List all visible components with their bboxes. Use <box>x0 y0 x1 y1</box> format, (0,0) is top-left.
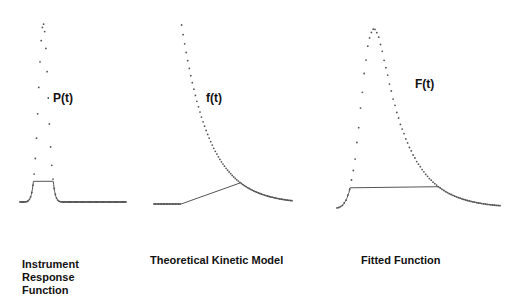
irf-caption-line: Instrument <box>22 258 79 271</box>
data-point <box>365 59 367 61</box>
data-point <box>42 27 44 29</box>
data-point <box>40 40 42 42</box>
data-point <box>202 121 204 123</box>
fitted-function-caption: Fitted Function <box>361 254 440 267</box>
data-point <box>208 137 210 139</box>
data-point <box>218 156 220 158</box>
data-point <box>187 60 189 62</box>
data-point <box>37 113 39 115</box>
data-point <box>34 158 36 160</box>
data-point <box>356 142 358 144</box>
data-point <box>390 90 392 92</box>
fitted-function-curve-label: F(t) <box>415 77 434 91</box>
data-point <box>409 147 411 149</box>
data-point <box>39 61 41 63</box>
data-point <box>376 32 378 34</box>
kinetic-model-caption: Theoretical Kinetic Model <box>150 254 283 267</box>
data-point <box>222 163 224 165</box>
data-point <box>49 123 51 125</box>
data-point <box>214 150 216 152</box>
data-point <box>225 167 227 169</box>
data-point <box>358 127 360 129</box>
curve-tail-trace <box>154 183 292 204</box>
data-point <box>396 112 398 114</box>
data-point <box>185 52 187 54</box>
data-point <box>414 157 416 159</box>
kinetic-model-curve-label: f(t) <box>206 91 222 105</box>
data-point <box>380 44 382 46</box>
data-point <box>211 144 213 146</box>
data-point <box>351 179 353 181</box>
data-point <box>430 179 432 181</box>
data-point <box>405 138 407 140</box>
data-point <box>190 75 192 77</box>
data-point <box>403 133 405 135</box>
irf-caption-line: Response <box>22 271 79 284</box>
data-point <box>52 178 54 180</box>
data-point <box>221 161 223 163</box>
data-point <box>43 23 45 25</box>
data-point <box>193 88 195 90</box>
data-point <box>421 169 423 171</box>
data-point <box>219 159 221 161</box>
curve-tail-trace <box>337 187 500 208</box>
data-point <box>387 74 389 76</box>
fitted-function-panel <box>336 28 501 209</box>
data-point <box>412 154 414 156</box>
data-point <box>400 124 402 126</box>
data-point <box>47 97 49 99</box>
data-point <box>195 95 197 97</box>
data-point <box>51 164 53 166</box>
data-point <box>38 87 40 89</box>
data-point <box>427 175 429 177</box>
data-point <box>204 125 206 127</box>
data-point <box>224 165 226 167</box>
data-point <box>416 161 418 163</box>
data-point <box>401 128 403 130</box>
data-point <box>425 174 427 176</box>
data-point <box>398 117 400 119</box>
data-point <box>363 73 365 75</box>
data-point <box>381 50 383 52</box>
data-point <box>198 106 200 108</box>
data-point <box>371 32 373 34</box>
data-point <box>188 68 190 70</box>
irf-caption: Instrument Response Function <box>22 258 79 297</box>
data-point <box>362 91 364 93</box>
data-point <box>372 28 374 30</box>
data-point <box>36 137 38 139</box>
data-point <box>228 171 230 173</box>
data-point <box>210 141 212 143</box>
data-point <box>389 83 391 85</box>
data-point <box>46 71 48 73</box>
data-point <box>45 48 47 50</box>
data-point <box>231 175 233 177</box>
irf-curve-label: P(t) <box>53 91 73 105</box>
data-point <box>394 104 396 106</box>
data-point <box>33 173 35 175</box>
data-point <box>230 173 232 175</box>
data-point <box>205 130 207 132</box>
curve-tail-trace <box>20 181 126 202</box>
data-point <box>227 169 229 171</box>
data-point <box>181 24 183 26</box>
irf-caption-line: Function <box>22 284 79 297</box>
data-point <box>418 163 420 165</box>
data-point <box>216 153 218 155</box>
data-point <box>44 31 46 33</box>
data-point <box>374 29 376 31</box>
data-point <box>419 166 421 168</box>
data-point <box>407 142 409 144</box>
data-point <box>213 147 215 149</box>
data-point <box>383 59 385 61</box>
data-point <box>378 36 380 38</box>
data-point <box>184 43 186 45</box>
data-point <box>352 170 354 172</box>
data-point <box>182 34 184 36</box>
data-point <box>50 146 52 148</box>
data-point <box>236 179 238 181</box>
data-point <box>369 37 371 39</box>
irf-panel <box>19 23 127 203</box>
kinetic-model-panel <box>153 24 293 205</box>
data-point <box>234 178 236 180</box>
